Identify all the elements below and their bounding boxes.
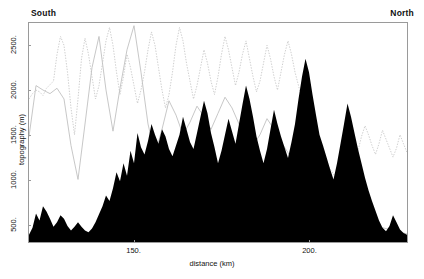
- topographic-profile-svg: [29, 23, 407, 242]
- y-tickmark: [28, 135, 31, 136]
- x-axis-title: distance (km): [0, 259, 424, 268]
- y-tickmark: [28, 225, 31, 226]
- y-axis-title: topography (m): [17, 94, 26, 184]
- plot-area: [28, 22, 408, 243]
- x-tick-150: 150.: [126, 246, 141, 255]
- orientation-label-north: North: [390, 8, 414, 18]
- y-tickmark: [28, 45, 31, 46]
- y-tick-500: 500.: [0, 220, 26, 230]
- series-mean-filled: [29, 59, 407, 242]
- x-tickmark: [309, 240, 310, 243]
- y-tickmark: [28, 90, 31, 91]
- orientation-label-south: South: [31, 8, 56, 18]
- x-tickmark: [134, 240, 135, 243]
- y-tick-2000: 2000.: [0, 85, 26, 95]
- y-tickmark: [28, 180, 31, 181]
- x-tick-200: 200.: [302, 246, 317, 255]
- y-tick-2500: 2500.: [0, 40, 26, 50]
- chart-root: South North 500. 1000. 1500. 2000. 2500.…: [0, 0, 424, 279]
